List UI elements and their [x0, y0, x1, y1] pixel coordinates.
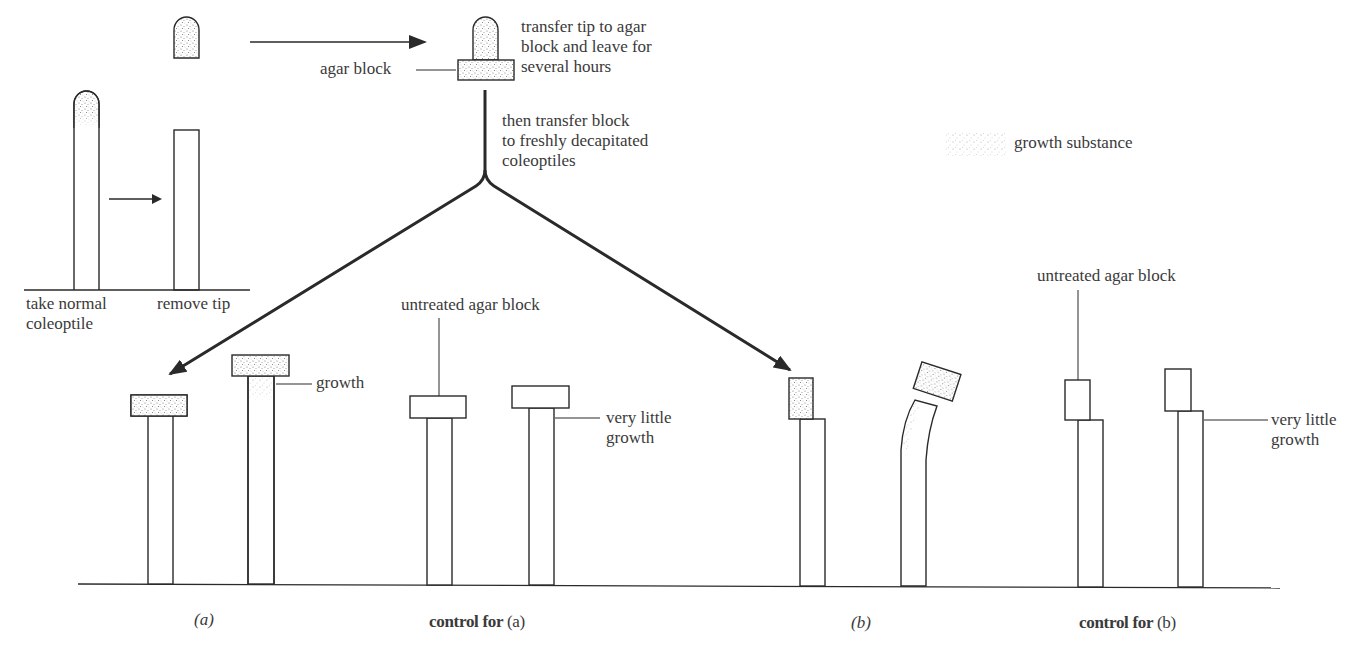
then-line3: coleoptiles	[502, 151, 648, 171]
very-little-b-line2: growth	[1271, 430, 1337, 450]
control-a2	[529, 408, 554, 585]
very-little-a-label: very little growth	[606, 408, 672, 448]
untreated-b-label: untreated agar block	[1037, 266, 1176, 286]
then-line2: to freshly decapitated	[502, 131, 648, 151]
agar-block-label: agar block	[320, 59, 391, 79]
legend-label: growth substance	[1014, 133, 1133, 153]
coleoptile-a1	[148, 416, 173, 584]
transfer-line3: several hours	[521, 57, 652, 77]
coleoptile-b1-agar	[789, 378, 813, 419]
untreated-a-label: untreated agar block	[401, 295, 540, 315]
growth-label: growth	[316, 373, 364, 393]
transfer-instruction: transfer tip to agar block and leave for…	[521, 17, 652, 77]
coleoptile-b2-agar	[913, 362, 961, 401]
control-b2	[1178, 411, 1203, 587]
decapitated-coleoptile	[174, 130, 199, 290]
caption-control-a: control for (a)	[429, 612, 525, 632]
caption-a: (a)	[194, 610, 214, 630]
caption-control-b-tag: (b)	[1157, 613, 1176, 632]
caption-control-a-tag: (a)	[507, 612, 525, 631]
control-a2-agar	[512, 386, 569, 408]
coleoptile-a2	[248, 376, 274, 584]
agar-block-top	[458, 60, 514, 80]
coleoptile-b2-bent	[901, 362, 961, 586]
caption-control-b: control for (b)	[1079, 613, 1176, 633]
normal-coleoptile	[74, 91, 99, 290]
step2-label: remove tip	[157, 294, 230, 314]
step1-label: take normal coleoptile	[26, 294, 107, 334]
then-line1: then transfer block	[502, 111, 648, 131]
coleoptile-a2-agar	[232, 355, 289, 376]
step1-line1: take normal	[26, 294, 107, 314]
diagram-canvas	[0, 0, 1366, 654]
caption-control-b-text: control for	[1079, 613, 1153, 632]
very-little-b-line1: very little	[1271, 410, 1337, 430]
tip-on-agar	[473, 17, 498, 60]
transfer-line2: block and leave for	[521, 37, 652, 57]
control-a1	[427, 418, 452, 585]
control-a1-agar	[410, 396, 466, 418]
coleoptile-b1	[800, 419, 825, 586]
control-b1	[1078, 420, 1103, 587]
caption-b: (b)	[851, 613, 871, 633]
very-little-a-line1: very little	[606, 408, 672, 428]
control-b1-agar	[1065, 380, 1090, 420]
caption-control-a-text: control for	[429, 612, 503, 631]
removed-tip	[174, 17, 199, 58]
step1-line2: coleoptile	[26, 314, 107, 334]
transfer-line1: transfer tip to agar	[521, 17, 652, 37]
legend-swatch	[946, 132, 1006, 156]
then-instruction: then transfer block to freshly decapitat…	[502, 111, 648, 171]
very-little-b-label: very little growth	[1271, 410, 1337, 450]
control-b2-agar	[1165, 369, 1191, 411]
very-little-a-line2: growth	[606, 428, 672, 448]
